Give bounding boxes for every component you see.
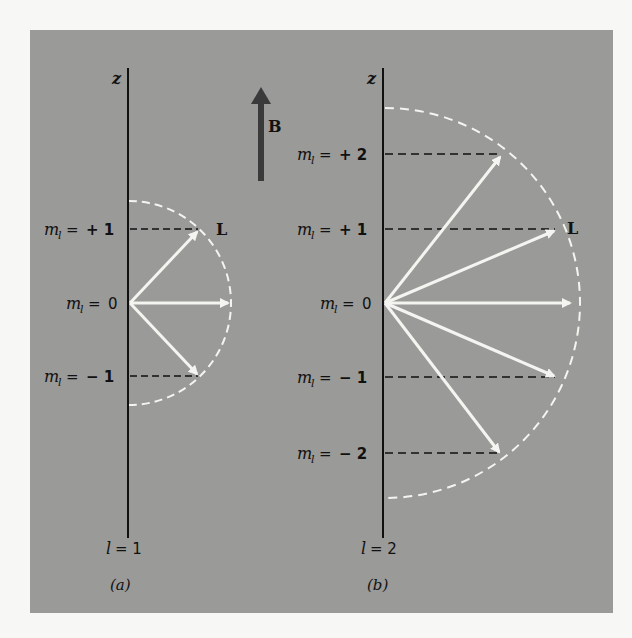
svg-text:m: m — [44, 367, 59, 386]
svg-text:=: = — [66, 368, 79, 386]
svg-text:m: m — [320, 294, 335, 313]
svg-text:0: 0 — [108, 295, 118, 313]
z-axis-label-b: z — [366, 69, 377, 88]
svg-text:=: = — [342, 295, 355, 313]
svg-text:m: m — [297, 145, 312, 164]
vector-label-a: L — [216, 220, 227, 239]
svg-text:l: l — [58, 376, 62, 389]
svg-text:l: l — [334, 303, 338, 316]
caption-a: (a) — [110, 576, 131, 594]
svg-text:m: m — [297, 220, 312, 239]
svg-text:l: l — [80, 303, 84, 316]
svg-text:l: l — [361, 539, 366, 558]
svg-text:− 1: − 1 — [86, 368, 114, 386]
z-axis-label-a: z — [111, 69, 122, 88]
level-label-b-zero: m l = 0 — [320, 294, 372, 316]
svg-text:= 1: = 1 — [115, 540, 142, 558]
caption-b: (b) — [367, 576, 388, 594]
svg-text:m: m — [66, 294, 81, 313]
svg-text:l: l — [106, 539, 111, 558]
svg-text:0: 0 — [362, 295, 372, 313]
figure-space-quantization: z L m l = + 1 m l = 0 m l = − 1 — [0, 0, 632, 638]
svg-text:− 1: − 1 — [339, 369, 367, 387]
level-label-a-zero: m l = 0 — [66, 294, 118, 316]
svg-text:=: = — [319, 221, 332, 239]
svg-text:m: m — [297, 444, 312, 463]
field-label-b: B — [268, 117, 282, 136]
svg-text:=: = — [319, 369, 332, 387]
svg-text:=: = — [319, 445, 332, 463]
svg-text:l: l — [311, 377, 315, 390]
svg-text:=: = — [319, 146, 332, 164]
svg-text:l: l — [58, 229, 62, 242]
figure-background — [30, 30, 613, 613]
vector-label-b: L — [567, 219, 578, 238]
svg-text:m: m — [44, 220, 59, 239]
svg-text:m: m — [297, 368, 312, 387]
svg-text:+ 1: + 1 — [339, 221, 367, 239]
svg-text:l: l — [311, 453, 315, 466]
svg-text:=: = — [88, 295, 101, 313]
svg-text:− 2: − 2 — [339, 445, 367, 463]
svg-text:l: l — [311, 154, 315, 167]
svg-text:= 2: = 2 — [370, 540, 397, 558]
svg-text:l: l — [311, 229, 315, 242]
svg-text:+ 2: + 2 — [339, 146, 367, 164]
svg-text:=: = — [66, 221, 79, 239]
svg-text:+ 1: + 1 — [86, 221, 114, 239]
